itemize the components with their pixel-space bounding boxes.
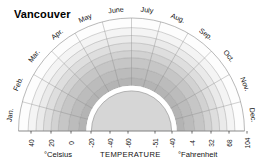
chart-baseline — [19, 131, 248, 134]
fahrenheit-axis-label: °Fahrenheit — [178, 150, 217, 159]
temperature-diagram: Vancouver Jan.Feb.Mar.Apr.MayJuneJulyAug… — [0, 0, 263, 165]
polar-temperature-chart — [0, 0, 263, 165]
temperature-axis-label: TEMPERATURE — [100, 150, 161, 159]
celsius-axis-label: °Celsius — [44, 150, 72, 159]
